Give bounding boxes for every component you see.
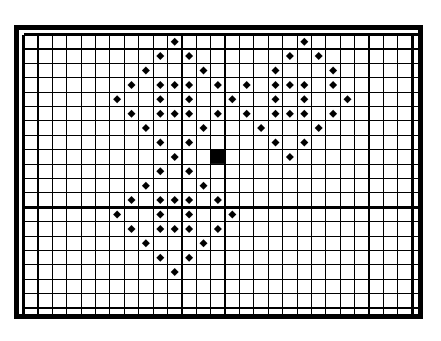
chart-grid-svg[interactable] (19, 30, 418, 314)
center-marker-cell[interactable] (211, 150, 225, 164)
chart-page (0, 0, 441, 341)
cross-stitch-chart-frame (14, 25, 423, 319)
chart-background (19, 30, 418, 314)
chart-grid-area[interactable] (19, 30, 418, 314)
